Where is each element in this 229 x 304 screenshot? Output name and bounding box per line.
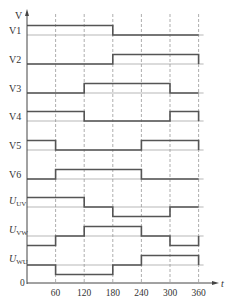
v5-label: V5: [9, 140, 21, 151]
x-tick-labels: 60120180240300360: [51, 288, 206, 298]
uvw-label: UVW: [9, 224, 28, 237]
y-axis-arrow-icon: [25, 9, 29, 16]
x-tick-360: 360: [191, 288, 206, 298]
x-tick-300: 300: [163, 288, 178, 298]
v1-label: V1: [9, 25, 21, 36]
v4-label: V4: [9, 111, 21, 122]
x-tick-180: 180: [106, 288, 121, 298]
switching-waveform-diagram: V t 0 60120180240300360 V1V2V3V4V5V6UUVU…: [0, 0, 229, 304]
v1-waveform: [27, 26, 199, 36]
v6-label: V6: [9, 169, 21, 180]
x-axis-label: t: [221, 278, 224, 289]
origin-label: 0: [20, 278, 25, 288]
signal-labels: V1V2V3V4V5V6UUVUVWUWU: [9, 25, 28, 266]
x-tick-240: 240: [134, 288, 149, 298]
x-axis-arrow-icon: [212, 281, 219, 285]
y-axis-label: V: [15, 10, 23, 21]
x-tick-60: 60: [51, 288, 61, 298]
v3-label: V3: [9, 83, 21, 94]
v2-waveform: [27, 55, 199, 65]
uuv-label: UUV: [9, 195, 26, 208]
uwu-label: UWU: [9, 253, 28, 266]
x-tick-120: 120: [77, 288, 92, 298]
v2-label: V2: [9, 54, 21, 65]
